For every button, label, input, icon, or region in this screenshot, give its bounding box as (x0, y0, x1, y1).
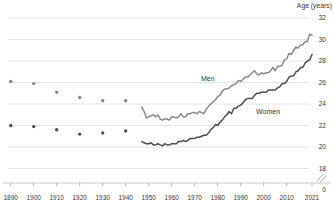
dot-men-decennial--1910 (55, 90, 58, 93)
x-tick-label-1940: 1940 (118, 194, 133, 201)
x-tick-label-1900: 1900 (26, 194, 41, 201)
series-line-women (142, 55, 312, 146)
y-tick-label-28: 28 (319, 57, 327, 64)
x-tick-label-2010: 2010 (279, 194, 294, 201)
x-tick-label-1990: 1990 (233, 194, 248, 201)
median-age-at-first-marriage-chart: 3230282624222018Age (years)1890190019101… (0, 0, 334, 209)
chart-svg: 3230282624222018Age (years)1890190019101… (0, 0, 334, 209)
dot-men-decennial--1920 (78, 96, 81, 99)
x-tick-label-1950: 1950 (141, 194, 156, 201)
x-tick-label-1960: 1960 (164, 194, 179, 201)
series-line-men (142, 34, 312, 120)
y-tick-label-24: 24 (319, 100, 327, 107)
y-tick-label-26: 26 (319, 79, 327, 86)
x-tick-label-1920: 1920 (72, 194, 87, 201)
y-tick-label-30: 30 (319, 36, 327, 43)
dot-women-decennial--1940 (124, 129, 127, 132)
x-tick-label-1930: 1930 (95, 194, 110, 201)
x-tick-label-1890: 1890 (3, 194, 18, 201)
y-tick-label-zero: 0 (322, 186, 326, 193)
dot-women-decennial--1890 (9, 124, 12, 127)
dot-women-decennial--1910 (55, 128, 58, 131)
dot-women-decennial--1900 (32, 125, 35, 128)
x-tick-label-2021: 2021 (305, 194, 320, 201)
y-tick-label-32: 32 (319, 14, 327, 21)
x-tick-label-2000: 2000 (256, 194, 271, 201)
dot-women-decennial--1930 (101, 131, 104, 134)
x-tick-label-1970: 1970 (187, 194, 202, 201)
series-label-men: Men (201, 75, 215, 82)
dot-men-decennial--1900 (32, 82, 35, 85)
x-tick-label-1980: 1980 (210, 194, 225, 201)
y-tick-label-20: 20 (319, 143, 327, 150)
y-tick-label-22: 22 (319, 122, 327, 129)
dot-women-decennial--1920 (78, 132, 81, 135)
y-axis-title: Age (years) (297, 2, 332, 10)
y-tick-label-18: 18 (319, 165, 327, 172)
dot-men-decennial--1940 (124, 99, 127, 102)
x-tick-label-1910: 1910 (49, 194, 64, 201)
series-label-women: Women (256, 108, 280, 115)
dot-men-decennial--1930 (101, 99, 104, 102)
dot-men-decennial--1890 (9, 80, 12, 83)
